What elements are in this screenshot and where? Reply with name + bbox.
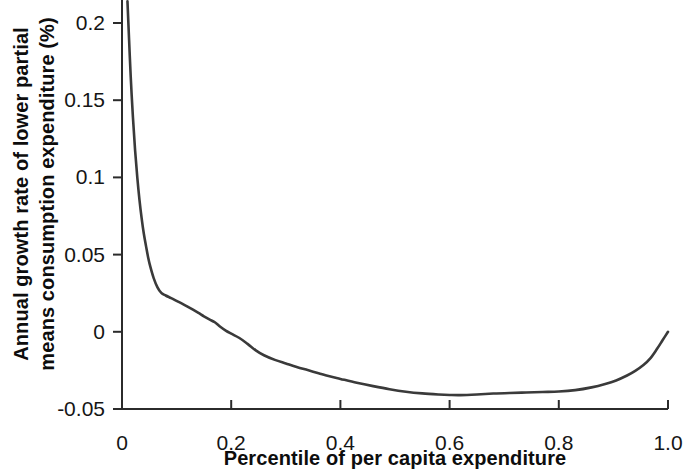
y-axis-title-line-1: Annual growth rate of lower partial xyxy=(8,0,34,409)
series-group xyxy=(127,1,668,395)
y-axis-ticks xyxy=(113,23,122,409)
chart-figure: 0.20.150.10.050-0.05 00.20.40.60.81.0 Pe… xyxy=(0,0,685,475)
x-axis-title: Percentile of per capita expenditure xyxy=(122,447,668,470)
data-line-annual-growth-rate xyxy=(127,1,668,395)
x-axis-ticks xyxy=(122,400,668,409)
y-axis-title: Annual growth rate of lower partial mean… xyxy=(8,0,60,409)
y-axis-title-line-2: means consumption expenditure (%) xyxy=(34,0,60,409)
axis-lines xyxy=(122,0,668,409)
